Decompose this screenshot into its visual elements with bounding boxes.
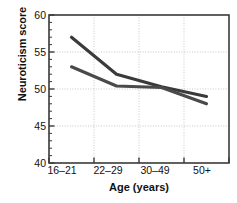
neuroticism-by-age-line-chart: Neuroticism score 60 55 50 45 40 16–21 2… [0,0,237,203]
plot-area [0,0,237,203]
x-axis-major-ticks [49,158,229,164]
gridlines [49,15,229,163]
